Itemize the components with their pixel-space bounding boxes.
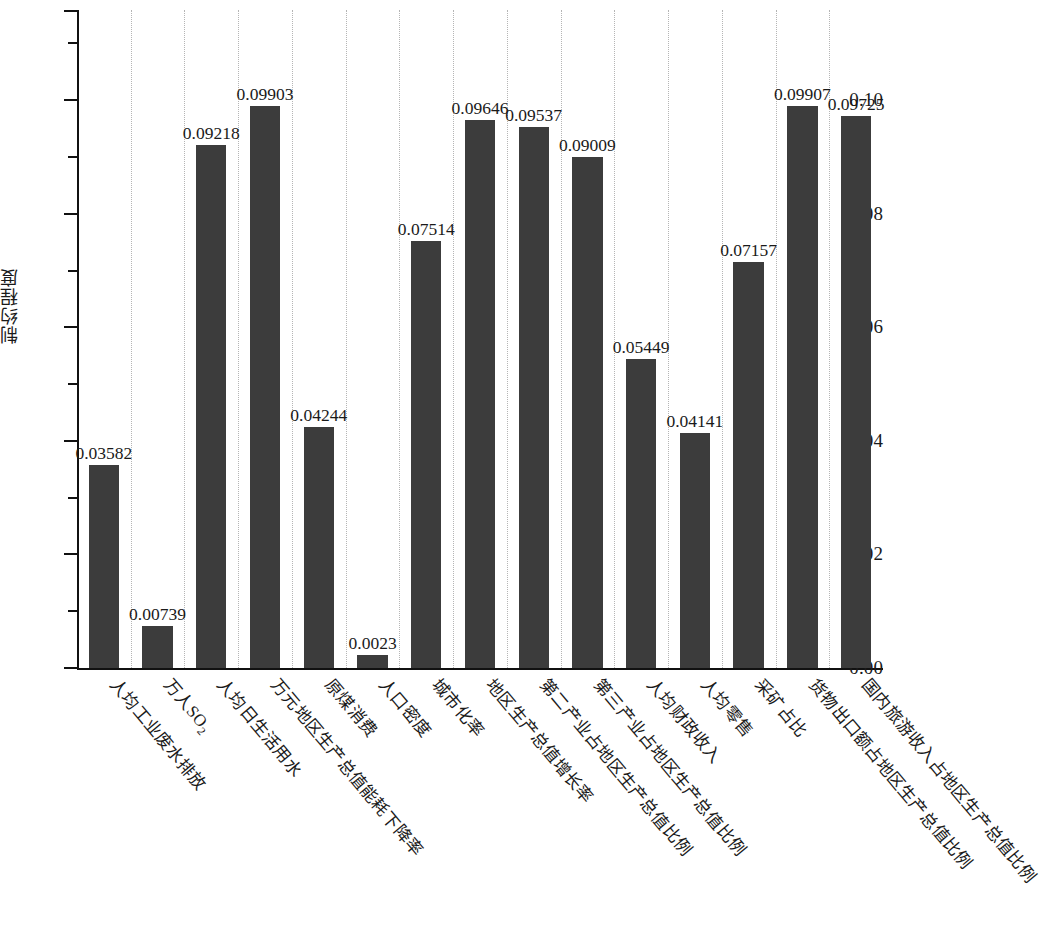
bar-value-label: 0.09537	[505, 107, 562, 125]
gridline	[131, 10, 132, 668]
bar	[841, 116, 871, 668]
bar	[411, 241, 441, 668]
y-axis-title: 制约程度	[2, 268, 28, 344]
bar	[787, 106, 817, 668]
y-tick-major	[64, 99, 77, 101]
bar-value-label: 0.03582	[75, 445, 132, 463]
y-tick-minor	[68, 42, 77, 44]
y-tick-minor	[68, 156, 77, 158]
bar-value-label: 0.00739	[129, 606, 186, 624]
bar	[196, 145, 226, 668]
y-tick-major	[64, 213, 77, 215]
bar-value-label: 0.09725	[828, 96, 885, 114]
bar-value-label: 0.07157	[720, 242, 777, 260]
gridline	[776, 10, 777, 668]
bar	[142, 626, 172, 668]
x-tick-label: 人口密度	[376, 676, 434, 740]
gridline	[292, 10, 293, 668]
bar	[519, 127, 549, 668]
y-tick-minor	[68, 497, 77, 499]
y-tick-minor	[68, 610, 77, 612]
x-tick-label: 人均零售	[698, 676, 756, 740]
x-tick-label: 原煤消费	[322, 676, 380, 740]
y-tick-major	[64, 667, 77, 669]
x-tick-label: 采矿占比	[752, 676, 810, 740]
bar	[465, 120, 495, 668]
x-tick-label: 人均工业废水排放	[107, 676, 209, 793]
y-tick-minor	[68, 270, 77, 272]
bar	[250, 106, 280, 668]
gridline	[238, 10, 239, 668]
plot-area: 0.035820.007390.092180.099030.042440.002…	[77, 10, 883, 668]
bar-value-label: 0.09907	[774, 86, 831, 104]
bar-value-label: 0.07514	[398, 221, 455, 239]
bar	[626, 359, 656, 668]
x-axis-line	[77, 668, 883, 670]
y-tick-major	[64, 326, 77, 328]
y-tick-major	[64, 553, 77, 555]
bar-value-label: 0.09903	[237, 86, 294, 104]
bar-value-label: 0.0023	[349, 635, 397, 653]
bar	[304, 427, 334, 668]
bar-value-label: 0.04141	[666, 413, 723, 431]
gridline	[184, 10, 185, 668]
bar-value-label: 0.04244	[290, 407, 347, 425]
bar	[572, 157, 602, 668]
bar	[733, 262, 763, 668]
bar-value-label: 0.09218	[183, 125, 240, 143]
gridline	[722, 10, 723, 668]
x-tick-label: 万人SO2	[158, 676, 214, 738]
bar-value-label: 0.05449	[613, 339, 670, 357]
bar-value-label: 0.09646	[452, 100, 509, 118]
y-axis-top-cap	[64, 10, 77, 12]
x-tick-label: 城市化率	[429, 676, 487, 740]
gridline	[346, 10, 347, 668]
bar	[680, 433, 710, 668]
gridline	[399, 10, 400, 668]
y-tick-major	[64, 440, 77, 442]
bar	[89, 465, 119, 668]
bar-value-label: 0.09009	[559, 137, 616, 155]
bar	[357, 655, 387, 668]
y-tick-minor	[68, 383, 77, 385]
x-tick-label: 地区生产总值增长率	[483, 676, 596, 806]
